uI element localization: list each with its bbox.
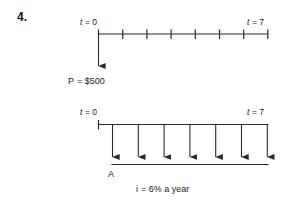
- bottom-timeline-end-label: t= 7: [247, 107, 264, 117]
- top-timeline-start-label: t= 0: [80, 17, 97, 27]
- diagram-canvas: t= 0 t= 7 P= $500: [0, 0, 299, 199]
- top-timeline-end-label: t= 7: [247, 17, 264, 27]
- interest-value: = 6% a year: [141, 184, 189, 194]
- present-value-symbol: P: [68, 76, 74, 86]
- bottom-timeline-start-label: t= 0: [80, 107, 97, 117]
- top-cash-flow-diagram: t= 0 t= 7 P= $500: [68, 17, 268, 86]
- annuity-symbol: A: [108, 169, 114, 179]
- interest-symbol: i: [136, 184, 138, 194]
- present-value-amount: = $500: [77, 76, 105, 86]
- top-start-value: = 0: [85, 17, 97, 27]
- bottom-end-value: = 7: [252, 107, 264, 117]
- cash-flow-diagram-figure: 4. t= 0 t= 7: [0, 0, 299, 199]
- bottom-start-value: = 0: [85, 107, 97, 117]
- bottom-cash-flow-diagram: t= 0 t= 7 A: [80, 107, 268, 179]
- top-end-value: = 7: [252, 17, 264, 27]
- bottom-end-symbol: t: [247, 107, 250, 117]
- bottom-start-symbol: t: [80, 107, 83, 117]
- top-start-symbol: t: [80, 17, 83, 27]
- interest-rate-caption: i= 6% a year: [136, 184, 189, 194]
- top-end-symbol: t: [247, 17, 250, 27]
- present-value-label: P= $500: [68, 76, 105, 86]
- annuity-label: A: [108, 169, 114, 179]
